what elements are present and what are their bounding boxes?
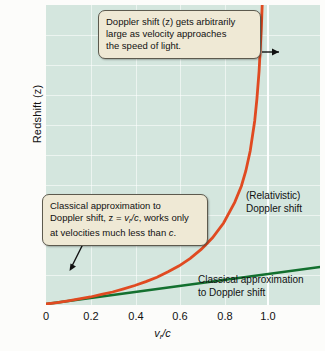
x-tick-label: 0.6 [160, 310, 200, 322]
callout-left-line1: Classical approximation to [50, 200, 200, 212]
curve-label-classical: Classical approximation to Doppler shift [198, 274, 324, 299]
curve-label-classical-line1: Classical approximation [198, 274, 324, 287]
curve-label-relativistic: (Relativistic) Doppler shift [246, 190, 324, 215]
x-tick-label: 1.0 [248, 310, 288, 322]
x-axis-label: vr/c [0, 327, 325, 341]
callout-top-line2: large as velocity approaches [106, 28, 253, 40]
callout-doppler-shift-arbitrarily-large[interactable]: Doppler shift (z) gets arbitrarily large… [98, 10, 261, 59]
x-axis-label-tail: /c [162, 327, 171, 339]
callout-left-line2-a: Doppler shift, z = [50, 212, 124, 223]
callout-classical-approximation[interactable]: Classical approximation to Doppler shift… [42, 194, 208, 246]
callout-left-line3: at velocities much less than c. [50, 227, 200, 239]
callout-left-line2: Doppler shift, z = vr/c, works only [50, 212, 200, 227]
y-axis-label: Redshift (z) [31, 59, 43, 169]
x-tick-label: 0.2 [71, 310, 111, 322]
curve-label-classical-line2: to Doppler shift [198, 287, 324, 300]
callout-top-line3: the speed of light. [106, 40, 253, 52]
callout-left-line2-c: /c [131, 212, 138, 223]
x-tick-label: 0 [26, 310, 66, 322]
figure-redshift-vs-velocity: Redshift (z) 10 9 8 7 6 5 4 3 2 1 0 0 0.… [0, 0, 325, 351]
x-tick-label: 0.4 [116, 310, 156, 322]
x-tick-label: 0.8 [205, 310, 245, 322]
curve-label-relativistic-line2: Doppler shift [246, 203, 324, 216]
curve-label-relativistic-line1: (Relativistic) [246, 190, 324, 203]
callout-top-line1: Doppler shift (z) gets arbitrarily [106, 16, 253, 28]
callout-left-line3-period: . [174, 227, 177, 238]
callout-left-line2-d: , works only [139, 212, 189, 223]
callout-left-line3-a: at velocities much less than [50, 227, 169, 238]
